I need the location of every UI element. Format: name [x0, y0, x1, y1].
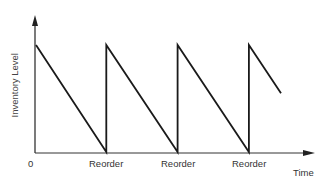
y-axis-label: Inventory Level [9, 58, 20, 118]
x-axis-label: Time [293, 167, 314, 178]
y-axis-arrow-icon [32, 15, 38, 26]
x-tick-reorder-3: Reorder [232, 158, 266, 169]
x-tick-reorder-2: Reorder [161, 158, 195, 169]
x-tick-reorder-1: Reorder [89, 158, 123, 169]
inventory-series-line [36, 45, 281, 152]
x-tick-origin: 0 [28, 158, 33, 169]
x-axis-arrow-icon [303, 150, 315, 156]
